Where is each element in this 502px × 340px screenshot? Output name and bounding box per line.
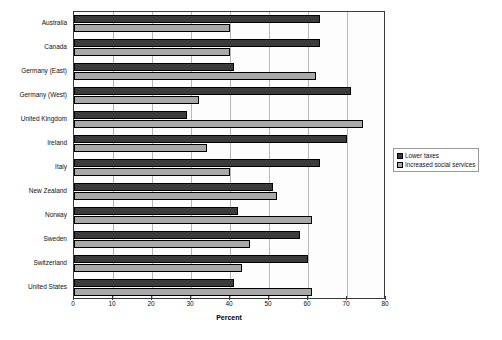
x-tick-label-10: 10 (108, 300, 115, 307)
bar-increased-social-services (74, 24, 230, 32)
x-axis-ticks: 01020304050607080 (73, 300, 385, 312)
x-tick-label-70: 70 (342, 300, 349, 307)
bar-row (74, 132, 384, 156)
bar-chart: AustraliaCanadaGermany (East)Germany (We… (0, 0, 502, 340)
bar-increased-social-services (74, 120, 363, 128)
legend: Lower taxes Increased social services (393, 148, 479, 172)
category-label: Sweden (0, 227, 71, 251)
bar-lower-taxes (74, 63, 234, 71)
bar-increased-social-services (74, 144, 207, 152)
bar-lower-taxes (74, 159, 320, 167)
bar-lower-taxes (74, 231, 300, 239)
x-tick-label-80: 80 (381, 300, 388, 307)
x-tick-label-60: 60 (303, 300, 310, 307)
bar-lower-taxes (74, 15, 320, 23)
category-label: United Kingdom (0, 107, 71, 131)
category-axis-labels: AustraliaCanadaGermany (East)Germany (We… (0, 11, 71, 299)
bar-rows (74, 12, 384, 298)
legend-swatch-lower-taxes (397, 153, 403, 159)
category-label: United States (0, 275, 71, 299)
bar-row (74, 108, 384, 132)
x-tick-label-0: 0 (71, 300, 75, 307)
category-label: Ireland (0, 131, 71, 155)
category-label: Norway (0, 203, 71, 227)
x-axis-title: Percent (73, 314, 385, 321)
bar-increased-social-services (74, 48, 230, 56)
bar-row (74, 36, 384, 60)
category-label: Germany (West) (0, 83, 71, 107)
bar-lower-taxes (74, 183, 273, 191)
x-tick-label-50: 50 (264, 300, 271, 307)
bar-row (74, 156, 384, 180)
category-label: Germany (East) (0, 59, 71, 83)
bar-lower-taxes (74, 255, 308, 263)
bar-row (74, 60, 384, 84)
legend-item-lower-taxes: Lower taxes (397, 151, 475, 160)
x-tick-label-30: 30 (186, 300, 193, 307)
x-tick-label-40: 40 (225, 300, 232, 307)
bar-row (74, 204, 384, 228)
bar-increased-social-services (74, 96, 199, 104)
legend-item-increased-social-services: Increased social services (397, 160, 475, 169)
legend-label-lower-taxes: Lower taxes (405, 151, 439, 160)
bar-increased-social-services (74, 72, 316, 80)
bar-lower-taxes (74, 39, 320, 47)
category-label: Switzerland (0, 251, 71, 275)
bar-row (74, 12, 384, 36)
bar-lower-taxes (74, 279, 234, 287)
bar-row (74, 180, 384, 204)
bar-lower-taxes (74, 135, 347, 143)
bar-increased-social-services (74, 288, 312, 296)
x-tick-label-20: 20 (147, 300, 154, 307)
category-label: New Zealand (0, 179, 71, 203)
bar-lower-taxes (74, 111, 187, 119)
bar-row (74, 228, 384, 252)
legend-swatch-increased-social-services (397, 162, 403, 168)
category-label: Canada (0, 35, 71, 59)
bar-row (74, 84, 384, 108)
bar-increased-social-services (74, 264, 242, 272)
bar-lower-taxes (74, 207, 238, 215)
bar-increased-social-services (74, 168, 230, 176)
bar-increased-social-services (74, 240, 250, 248)
bar-row (74, 252, 384, 276)
bar-increased-social-services (74, 216, 312, 224)
bar-lower-taxes (74, 87, 351, 95)
category-label: Australia (0, 11, 71, 35)
category-label: Italy (0, 155, 71, 179)
bar-increased-social-services (74, 192, 277, 200)
legend-label-increased-social-services: Increased social services (405, 160, 475, 169)
plot-area (73, 11, 385, 299)
